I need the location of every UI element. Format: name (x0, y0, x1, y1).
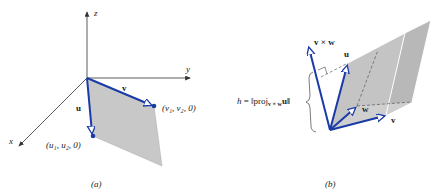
right-angle-mark (318, 67, 327, 74)
vector-u-label: u (344, 49, 349, 59)
figure-a: z y x v u (v₁, v₂, 0) (u₁, u₂, 0) (a) (8, 8, 196, 189)
height-label-tail: u‖ (282, 96, 290, 106)
vector-vxw (309, 48, 330, 130)
height-label: h = ‖projv × wu‖ (237, 96, 290, 107)
point-u-label: (u₁, u₂, 0) (46, 140, 81, 150)
figure-canvas: z y x v u (v₁, v₂, 0) (u₁, u₂, 0) (a) (0, 0, 439, 193)
y-axis-label: y (185, 64, 190, 74)
point-u (91, 134, 96, 139)
point-v (152, 104, 157, 109)
x-axis-label: x (8, 136, 13, 146)
vector-v-label: v (391, 115, 396, 125)
vector-u-label: u (76, 103, 81, 113)
height-label-main: ‖proj (251, 96, 268, 106)
caption-b: (b) (325, 179, 336, 189)
z-axis-label: z (93, 8, 98, 18)
figure-b: v × w u w v h = ‖projv × wu‖ (b) (237, 20, 431, 189)
point-v-label: (v₁, v₂, 0) (162, 103, 196, 113)
vector-vxw-label: v × w (314, 37, 335, 47)
height-brace (306, 72, 316, 132)
height-label-sub: v × w (268, 101, 282, 107)
vector-w-label: w (362, 104, 369, 114)
caption-a: (a) (91, 179, 102, 189)
vector-v-label: v (122, 83, 127, 93)
